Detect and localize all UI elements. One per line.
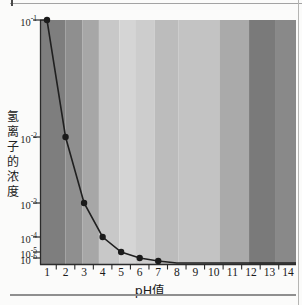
data-point-marker bbox=[118, 249, 124, 255]
ph-color-band bbox=[119, 20, 136, 265]
x-axis-title: pH值 bbox=[40, 280, 260, 299]
x-tick-label: 9 bbox=[186, 266, 204, 278]
ph-color-band bbox=[99, 20, 119, 265]
ph-color-band bbox=[66, 20, 83, 265]
y-tick-label: 10-6 bbox=[2, 251, 37, 266]
x-tick-label: 6 bbox=[131, 266, 149, 278]
y-tick-base: 10 bbox=[20, 134, 31, 145]
x-tick-label: 13 bbox=[260, 266, 278, 278]
x-tick-label: 4 bbox=[94, 266, 112, 278]
x-tick-label: 10 bbox=[205, 266, 223, 278]
ph-color-band bbox=[249, 20, 275, 265]
x-tick-label: 8 bbox=[168, 266, 186, 278]
ph-color-band bbox=[82, 20, 99, 265]
page-right-rule bbox=[298, 0, 299, 305]
chart-plot bbox=[0, 0, 302, 305]
x-tick-label: 14 bbox=[279, 266, 297, 278]
data-point-marker bbox=[155, 258, 161, 264]
y-tick-exponent: -1 bbox=[31, 14, 37, 23]
ph-color-band bbox=[155, 20, 179, 265]
data-point-marker bbox=[44, 17, 50, 23]
x-tick-label: 1 bbox=[38, 266, 56, 278]
y-tick-exponent: -6 bbox=[31, 252, 37, 261]
data-point-marker bbox=[81, 200, 87, 206]
data-point-marker bbox=[99, 234, 105, 240]
x-tick-label: 2 bbox=[57, 266, 75, 278]
data-point-marker bbox=[136, 255, 142, 261]
x-tick-label: 7 bbox=[149, 266, 167, 278]
ph-color-band bbox=[275, 20, 296, 265]
scanned-figure: 10-110-210-310-410-510-6 123456789101112… bbox=[0, 0, 302, 305]
y-tick-label: 10-4 bbox=[2, 230, 37, 245]
y-tick-base: 10 bbox=[20, 255, 31, 266]
ph-color-band bbox=[136, 20, 155, 265]
y-tick-exponent: -3 bbox=[31, 197, 37, 206]
y-tick-exponent: -4 bbox=[31, 231, 37, 240]
y-tick-exponent: -2 bbox=[31, 131, 37, 140]
y-axis-title: 氢离子的浓度 bbox=[3, 110, 20, 230]
y-tick-label: 10-1 bbox=[2, 13, 37, 28]
y-tick-base: 10 bbox=[20, 234, 31, 245]
ph-color-band bbox=[179, 20, 220, 265]
ph-color-band bbox=[219, 20, 249, 265]
x-tick-label: 12 bbox=[242, 266, 260, 278]
x-tick-label: 3 bbox=[75, 266, 93, 278]
x-tick-label: 5 bbox=[112, 266, 130, 278]
page-bottom-rule bbox=[10, 294, 296, 296]
data-point-marker bbox=[62, 134, 68, 140]
y-tick-base: 10 bbox=[20, 200, 31, 211]
y-tick-base: 10 bbox=[20, 17, 31, 28]
x-tick-label: 11 bbox=[223, 266, 241, 278]
